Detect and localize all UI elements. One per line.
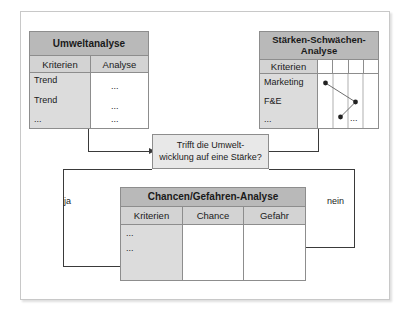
chart-grid-header-1: [318, 60, 333, 73]
decision-line2: wicklung auf eine Stärke?: [159, 152, 262, 164]
umweltanalyse-kriterien-column: Trend Trend ...: [30, 73, 91, 128]
chancen-gefahren-title: Chancen/Gefahren-Analyse: [121, 188, 305, 207]
staerken-kriterien-column: Marketing F&E ...: [260, 74, 318, 128]
column-header-gefahr: Gefahr: [244, 207, 305, 224]
umweltanalyse-body: Trend Trend ... ... ... ...: [30, 73, 148, 128]
chart-grid-header-4: [364, 60, 378, 73]
no-branch-vertical: [354, 169, 355, 248]
chart-grid-header-2: [333, 60, 348, 73]
chart-grid-header-3: [349, 60, 364, 73]
staerken-body: Marketing F&E ... ...: [260, 74, 378, 128]
chancen-kriterien-column: ... ...: [121, 225, 183, 280]
connector-staerken-horizontal: [266, 151, 319, 152]
chancen-chance-column: [183, 225, 244, 280]
table-cell: Trend: [34, 75, 57, 85]
diagram-frame: Umweltanalyse Kriterien Analyse Trend Tr…: [20, 11, 390, 300]
table-cell: ...: [111, 81, 119, 91]
profile-polyline-chart: [318, 74, 378, 128]
column-header-chance: Chance: [183, 207, 244, 224]
staerken-schwaechen-table: Stärken-Schwächen- Analyse Kriterien Mar…: [259, 31, 379, 129]
column-header-kriterien: Kriterien: [30, 56, 91, 72]
column-header-kriterien: Kriterien: [260, 60, 318, 73]
edge-label-ja: ja: [64, 196, 71, 206]
chancen-gefahr-column: [244, 225, 305, 280]
chart-ellipsis: ...: [350, 113, 358, 123]
column-header-kriterien: Kriterien: [121, 207, 183, 224]
staerken-title-line1: Stärken-Schwächen-: [272, 35, 365, 46]
edge-label-nein: nein: [327, 196, 344, 206]
chancen-body: ... ...: [121, 225, 305, 280]
table-cell: Marketing: [264, 77, 304, 87]
connector-staerken-stub: [318, 129, 319, 151]
connector-umwelt-horizontal: [88, 151, 151, 152]
table-cell: ...: [111, 101, 119, 111]
chancen-gefahren-table: Chancen/Gefahren-Analyse Kriterien Chanc…: [120, 187, 306, 281]
table-cell: ...: [34, 114, 42, 124]
yes-branch-top: [63, 169, 152, 170]
column-header-analyse: Analyse: [91, 56, 148, 72]
staerken-profile-chart: ...: [318, 74, 378, 128]
staerken-schwaechen-title: Stärken-Schwächen- Analyse: [260, 32, 378, 60]
staerken-title-line2: Analyse: [301, 46, 337, 57]
decision-text: Trifft die Umwelt- wicklung auf eine Stä…: [159, 140, 262, 163]
table-cell: Trend: [34, 95, 57, 105]
umweltanalyse-column-headers: Kriterien Analyse: [30, 56, 148, 73]
table-cell: ...: [126, 228, 134, 238]
table-cell: ...: [126, 243, 134, 253]
umweltanalyse-table: Umweltanalyse Kriterien Analyse Trend Tr…: [29, 31, 149, 129]
table-cell: F&E: [264, 96, 282, 106]
connector-umwelt-stub: [88, 129, 89, 151]
umweltanalyse-analyse-column: ... ... ...: [91, 73, 148, 128]
yes-branch-vertical: [63, 169, 64, 267]
staerken-column-headers: Kriterien: [260, 60, 378, 74]
table-cell: ...: [264, 114, 272, 124]
diagram-canvas: Umweltanalyse Kriterien Analyse Trend Tr…: [0, 0, 410, 315]
table-cell: ...: [111, 114, 119, 124]
decision-box: Trifft die Umwelt- wicklung auf eine Stä…: [152, 134, 269, 169]
decision-line1: Trifft die Umwelt-: [159, 140, 262, 152]
no-branch-top: [269, 169, 355, 170]
chancen-column-headers: Kriterien Chance Gefahr: [121, 207, 305, 225]
umweltanalyse-title: Umweltanalyse: [30, 32, 148, 56]
